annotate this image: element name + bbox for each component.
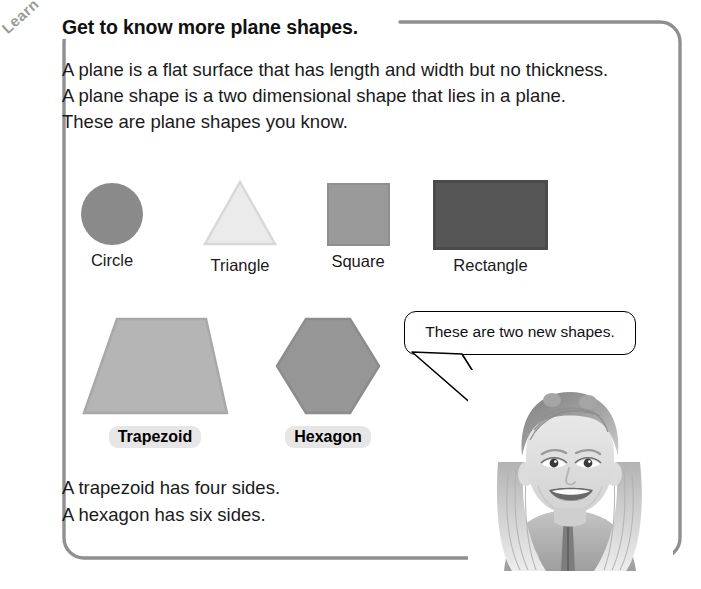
shape-item-trapezoid: Trapezoid — [62, 316, 248, 448]
closing-line-2: A hexagon has six sides. — [62, 501, 280, 528]
intro-line-2: A plane shape is a two dimensional shape… — [62, 83, 608, 109]
speech-bubble-text: These are two new shapes. — [405, 323, 635, 341]
intro-paragraph: A plane is a flat surface that has lengt… — [62, 57, 608, 135]
hexagon-icon — [274, 316, 382, 416]
shape-label-trapezoid-wrap: Trapezoid — [62, 420, 248, 448]
square-icon — [327, 183, 390, 246]
triangle-icon — [203, 180, 277, 246]
speech-bubble: These are two new shapes. — [404, 311, 636, 355]
shape-item-hexagon: Hexagon — [248, 316, 408, 448]
shape-label-circle: Circle — [62, 251, 162, 270]
intro-line-3: These are plane shapes you know. — [62, 109, 608, 135]
shape-label-square: Square — [312, 252, 404, 271]
shape-label-hexagon-wrap: Hexagon — [248, 420, 408, 448]
trapezoid-icon — [81, 316, 229, 416]
shape-label-rectangle: Rectangle — [432, 256, 549, 275]
shape-item-triangle: Triangle — [188, 180, 292, 275]
closing-line-1: A trapezoid has four sides. — [62, 474, 280, 501]
intro-line-1: A plane is a flat surface that has lengt… — [62, 57, 608, 83]
circle-icon — [81, 183, 143, 245]
worksheet-page: Learn Get to know more plane shapes. A p… — [0, 0, 701, 589]
page-title: Get to know more plane shapes. — [62, 16, 366, 39]
student-photo — [468, 370, 673, 571]
closing-paragraph: A trapezoid has four sides. A hexagon ha… — [62, 474, 280, 528]
shape-item-square: Square — [312, 183, 404, 271]
learn-tab: Learn — [0, 8, 68, 68]
shape-item-circle: Circle — [62, 183, 162, 270]
rectangle-icon — [433, 180, 548, 250]
learn-tab-label: Learn — [0, 0, 42, 37]
shape-label-hexagon: Hexagon — [285, 426, 371, 448]
shape-item-rectangle: Rectangle — [432, 180, 549, 275]
shape-label-triangle: Triangle — [188, 256, 292, 275]
shape-label-trapezoid: Trapezoid — [109, 426, 202, 448]
student-photo-art — [468, 370, 673, 571]
